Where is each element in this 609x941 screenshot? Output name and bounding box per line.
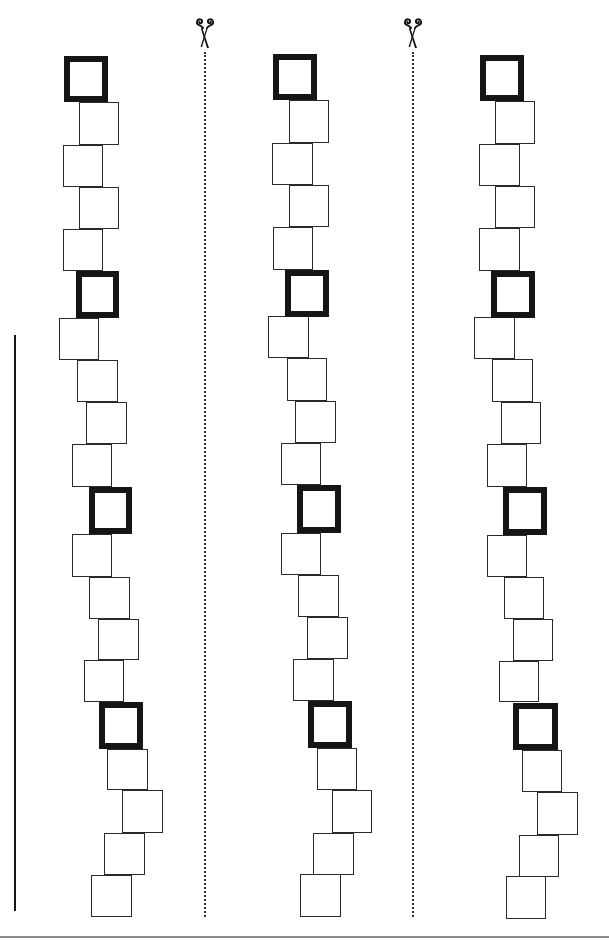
thick-square (89, 487, 132, 534)
square (495, 186, 535, 228)
square (86, 402, 127, 444)
square (487, 444, 527, 487)
square (122, 790, 163, 833)
square (63, 229, 103, 271)
bottom-rule (0, 936, 609, 938)
thick-square (491, 271, 535, 318)
square (72, 534, 112, 577)
square (537, 792, 578, 835)
square (289, 185, 329, 227)
square (98, 619, 139, 660)
thick-square (503, 487, 547, 535)
thick-square (273, 54, 317, 100)
square (504, 577, 544, 619)
square (91, 875, 132, 917)
square (474, 317, 515, 359)
dotted-cut-line-2 (412, 52, 414, 917)
square (79, 187, 119, 229)
thick-square (308, 701, 352, 748)
square (492, 359, 533, 402)
dotted-cut-line-1 (204, 52, 206, 917)
square (506, 876, 546, 919)
square (281, 533, 321, 575)
square (281, 443, 321, 485)
square (273, 227, 313, 270)
square (298, 575, 339, 617)
thick-square (285, 270, 329, 317)
square (268, 316, 309, 358)
square (84, 660, 124, 702)
square (107, 749, 148, 790)
square (77, 360, 118, 402)
square (59, 318, 99, 360)
thick-square (480, 55, 524, 101)
square (300, 874, 341, 917)
square (272, 143, 313, 185)
square (479, 144, 520, 186)
square (72, 444, 112, 487)
thick-square (76, 271, 119, 318)
square (479, 228, 520, 271)
square (104, 833, 145, 875)
square (63, 145, 103, 187)
scissors-icon (192, 16, 218, 50)
square (519, 835, 559, 877)
square (332, 790, 372, 833)
scissors-icon (400, 16, 426, 50)
square (287, 358, 327, 401)
worksheet-page: Square tower tracing and cutting workshe… (0, 0, 609, 941)
square (79, 102, 119, 145)
square (495, 101, 535, 144)
square (289, 100, 329, 143)
square (89, 577, 130, 619)
square (501, 402, 541, 444)
left-margin-line (14, 335, 16, 911)
square (317, 748, 357, 790)
thick-square (297, 485, 341, 533)
worksheet-title: Square tower tracing and cutting workshe… (0, 0, 1, 1)
square (307, 617, 348, 659)
square (499, 661, 539, 702)
thick-square (513, 703, 558, 750)
thick-square (64, 56, 108, 102)
square (293, 659, 334, 701)
square (522, 750, 562, 792)
square (513, 619, 553, 661)
square (295, 401, 336, 443)
thick-square (99, 702, 143, 749)
square (313, 833, 354, 875)
square (487, 535, 527, 577)
